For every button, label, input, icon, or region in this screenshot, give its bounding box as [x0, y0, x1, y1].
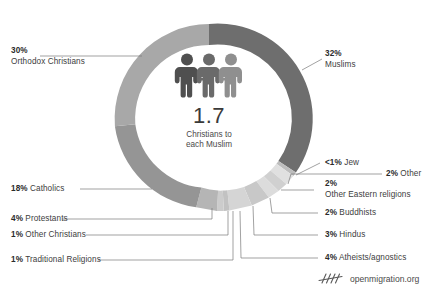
- label-other-christians-name: Other Christians: [25, 230, 85, 239]
- label-hindus-name: Hindus: [339, 230, 365, 239]
- label-protestants-pct: 4%: [11, 214, 23, 223]
- tally-mark-logo-icon: [318, 272, 344, 285]
- center-summary: 1.7 Christians to each Muslim: [151, 52, 267, 151]
- label-buddhists-pct: 2%: [325, 208, 337, 217]
- person-left: [175, 54, 198, 98]
- label-orthodox: 30% Orthodox Christians: [11, 46, 85, 67]
- label-catholics-name: Catholics: [30, 184, 64, 193]
- person-center: [197, 54, 220, 98]
- leader-line-muslims: [302, 59, 322, 70]
- three-people-icon: [173, 52, 245, 98]
- leader-line-buddhists: [270, 198, 318, 213]
- label-traditional: 1% Traditional Religions: [11, 255, 101, 266]
- label-atheists: 4% Atheists/agnostics: [325, 253, 406, 264]
- label-jew-name: Jew: [344, 158, 359, 167]
- person-right: [219, 54, 242, 98]
- label-other-eastern-name: Other Eastern religions: [325, 190, 411, 199]
- label-atheists-pct: 4%: [325, 253, 337, 262]
- ratio-value: 1.7: [151, 104, 267, 128]
- leader-line-protestants: [62, 208, 212, 219]
- label-orthodox-pct: 30%: [11, 46, 28, 55]
- label-buddhists: 2% Buddhists: [325, 208, 376, 219]
- label-other-name: Other: [400, 169, 421, 178]
- label-other-eastern-pct: 2%: [325, 179, 337, 188]
- label-muslims-name: Muslims: [325, 60, 356, 69]
- religion-donut-infographic: 1.7 Christians to each Muslim 30% Orthod…: [0, 0, 443, 301]
- ratio-caption-line1: Christians to: [151, 130, 267, 140]
- footer-attribution: openmigration.org: [318, 272, 419, 285]
- label-jew: <1% Jew: [325, 158, 359, 169]
- label-other-christians-pct: 1%: [11, 230, 23, 239]
- label-other-eastern: 2% Other Eastern religions: [325, 179, 440, 200]
- label-hindus-pct: 3%: [325, 230, 337, 239]
- label-other-pct: 2%: [386, 169, 398, 178]
- label-traditional-name: Traditional Religions: [25, 255, 101, 264]
- label-other: 2% Other: [386, 169, 421, 180]
- label-muslims: 32% Muslims: [325, 49, 356, 70]
- arc-other-christians: [217, 191, 224, 211]
- leader-line-atheists: [240, 211, 318, 258]
- ratio-caption: Christians to each Muslim: [151, 130, 267, 151]
- label-traditional-pct: 1%: [11, 255, 23, 264]
- leader-line-hindus: [253, 206, 318, 235]
- label-jew-pct: <1%: [325, 158, 342, 167]
- label-muslims-pct: 32%: [325, 49, 342, 58]
- label-buddhists-name: Buddhists: [339, 208, 376, 217]
- label-catholics: 18% Catholics: [11, 184, 64, 195]
- label-protestants-name: Protestants: [25, 214, 67, 223]
- leader-line-traditional: [98, 211, 233, 260]
- label-orthodox-name: Orthodox Christians: [11, 57, 85, 66]
- label-protestants: 4% Protestants: [11, 214, 68, 225]
- label-catholics-pct: 18%: [11, 184, 28, 193]
- label-atheists-name: Atheists/agnostics: [339, 253, 406, 262]
- leader-line-other-christians: [86, 211, 228, 235]
- label-other-christians: 1% Other Christians: [11, 230, 86, 241]
- footer-site-label: openmigration.org: [350, 274, 419, 284]
- ratio-caption-line2: each Muslim: [151, 140, 267, 150]
- label-hindus: 3% Hindus: [325, 230, 365, 241]
